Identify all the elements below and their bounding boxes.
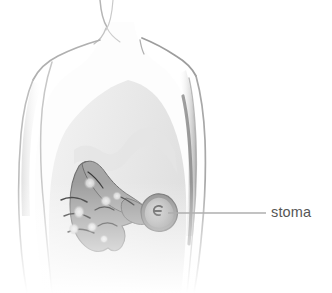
bottom-fade — [0, 0, 332, 293]
stoma-diagram: stoma — [0, 0, 332, 293]
anatomy-illustration — [0, 0, 332, 293]
stoma-label: stoma — [271, 203, 311, 221]
